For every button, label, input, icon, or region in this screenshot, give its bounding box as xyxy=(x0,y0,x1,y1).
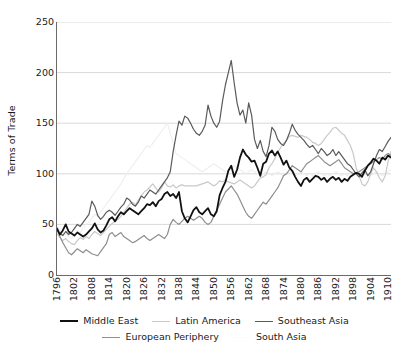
chart-legend: Middle EastLatin AmericaSoutheast Asia E… xyxy=(0,313,409,345)
x-tick-label: 1826 xyxy=(139,277,149,301)
legend-item-european-periphery[interactable]: European Periphery xyxy=(102,331,218,343)
x-tick-label: 1856 xyxy=(226,277,236,301)
legend-line-swatch-icon xyxy=(60,320,78,322)
legend-line-swatch-icon xyxy=(102,337,120,338)
x-tick-label: 1796 xyxy=(52,277,62,301)
x-tick-label: 1820 xyxy=(122,277,132,301)
x-tick-label: 1844 xyxy=(191,277,201,301)
legend-label: South Asia xyxy=(256,331,307,343)
x-tick-label: 1802 xyxy=(69,277,79,301)
series-line-european-periphery xyxy=(57,154,391,256)
series-canvas xyxy=(57,22,391,275)
y-axis-title: Terms of Trade xyxy=(0,0,22,280)
y-tick-label: 100 xyxy=(28,169,54,179)
legend-label: Middle East xyxy=(83,315,138,327)
x-tick-label: 1886 xyxy=(313,277,323,301)
x-tick-label: 1862 xyxy=(244,277,254,301)
legend-label: European Periphery xyxy=(125,331,218,343)
legend-row-secondary: European PeripherySouth Asia xyxy=(0,329,409,345)
x-tick-label: 1868 xyxy=(261,277,271,301)
legend-row-primary: Middle EastLatin AmericaSoutheast Asia xyxy=(0,313,409,329)
x-tick-label: 1808 xyxy=(87,277,97,301)
chart-figure: Terms of Trade 050100150200250 179618021… xyxy=(0,0,409,364)
x-tick-label: 1910 xyxy=(383,277,393,301)
legend-item-southeast-asia[interactable]: Southeast Asia xyxy=(255,315,349,327)
x-tick-label: 1832 xyxy=(157,277,167,301)
y-tick-label: 250 xyxy=(28,17,54,27)
y-tick-label: 50 xyxy=(28,219,54,229)
legend-item-middle-east[interactable]: Middle East xyxy=(60,315,138,327)
legend-item-latin-america[interactable]: Latin America xyxy=(152,315,241,327)
y-axis-tick-labels: 050100150200250 xyxy=(22,0,54,364)
x-tick-label: 1898 xyxy=(348,277,358,301)
x-tick-label: 1880 xyxy=(296,277,306,301)
legend-line-swatch-icon xyxy=(233,337,251,338)
x-tick-label: 1850 xyxy=(209,277,219,301)
legend-label: Southeast Asia xyxy=(278,315,349,327)
legend-line-swatch-icon xyxy=(255,321,273,322)
legend-line-swatch-icon xyxy=(152,321,170,322)
plot-area xyxy=(56,22,391,276)
x-tick-label: 1814 xyxy=(104,277,114,301)
y-axis-title-text: Terms of Trade xyxy=(6,105,17,176)
legend-item-south-asia[interactable]: South Asia xyxy=(233,331,307,343)
legend-label: Latin America xyxy=(175,315,241,327)
y-tick-label: 150 xyxy=(28,118,54,128)
x-tick-label: 1904 xyxy=(366,277,376,301)
series-line-southeast-asia xyxy=(57,60,391,235)
x-tick-label: 1838 xyxy=(174,277,184,301)
x-tick-label: 1892 xyxy=(331,277,341,301)
y-tick-label: 200 xyxy=(28,68,54,78)
x-tick-label: 1874 xyxy=(279,277,289,301)
